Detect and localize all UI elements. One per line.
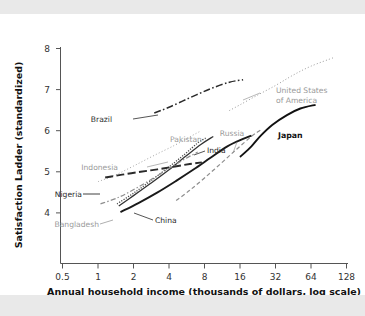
x-axis-ticks [63,264,347,269]
x-tick-label: 1 [95,272,101,282]
china-leader-line [134,213,153,220]
series-curve-nigeria [105,162,202,177]
x-axis-title: Annual household income (thousands of do… [47,286,361,295]
brazil-leader-line [133,115,158,119]
series-label-nigeria: Nigeria [55,190,82,199]
series-curve-india [119,136,214,205]
x-tick-label: 4 [166,272,172,282]
series-label-bangladesh: Bangladesh [54,220,99,229]
series-label-russia: Russia [220,129,244,138]
series-curve-china [120,136,251,212]
series-label-indonesia: Indonesia [81,163,118,172]
y-tick-label: 6 [44,126,50,136]
y-axis-tick-labels: 8 7 6 5 4 [44,44,50,218]
series-annotations: Brazil United States of America Indonesi… [54,86,327,229]
x-tick-label: 16 [234,272,246,282]
series-label-china: China [155,216,177,225]
y-axis-ticks [56,49,61,213]
x-tick-label: 0.5 [55,272,69,282]
y-tick-label: 7 [44,85,50,95]
y-tick-label: 8 [44,44,50,54]
figure-card: 8 7 6 5 4 0.5 1 2 4 8 16 32 64 128 Annua… [0,14,365,295]
satisfaction-income-chart: 8 7 6 5 4 0.5 1 2 4 8 16 32 64 128 Annua… [0,14,365,295]
series-label-usa-line2: of America [276,96,317,105]
x-tick-label: 8 [202,272,208,282]
y-axis-title: Satisfaction Ladder (standardized) [13,62,24,249]
annotation-leader-lines [83,93,260,224]
chart-axes [56,47,348,269]
series-label-pakistan: Pakistan [170,135,202,144]
series-curve-brazil [154,80,243,113]
usa-leader-line [243,93,260,100]
bangladesh-leader-line [100,220,113,224]
series-label-usa-line1: United States [276,86,327,95]
y-tick-label: 4 [44,208,50,218]
x-tick-label: 2 [131,272,137,282]
y-tick-label: 5 [44,167,50,177]
x-tick-label: 128 [338,272,355,282]
x-axis-tick-labels: 0.5 1 2 4 8 16 32 64 128 [55,272,355,282]
series-label-brazil: Brazil [91,115,112,124]
x-tick-label: 32 [270,272,281,282]
x-tick-label: 64 [305,272,317,282]
series-label-japan: Japan [277,131,303,140]
series-label-india: India [207,146,226,155]
indonesia-leader-line [147,162,168,167]
screenshot-root: 8 7 6 5 4 0.5 1 2 4 8 16 32 64 128 Annua… [0,0,365,316]
